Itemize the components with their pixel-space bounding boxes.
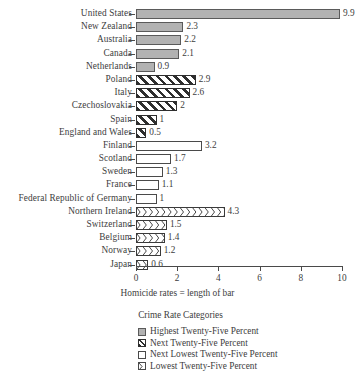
bar: [136, 35, 181, 45]
legend-label: Highest Twenty-Five Percent: [150, 326, 259, 337]
x-axis: 0246810: [0, 266, 355, 290]
bar-value-label: 1.1: [162, 178, 174, 191]
y-axis-tick: [129, 238, 135, 239]
bar: [136, 9, 340, 19]
x-axis-tick: [301, 266, 302, 271]
x-axis-tick: [136, 266, 137, 271]
zigzag-pattern: [137, 208, 224, 216]
category-label: Canada: [0, 47, 132, 60]
legend-swatch-next: [138, 339, 146, 347]
bar: [136, 167, 163, 177]
bar: [136, 75, 196, 85]
category-label: United States: [0, 7, 132, 20]
category-label: Sweden: [0, 165, 132, 178]
bar-value-label: 2.6: [193, 86, 205, 99]
category-label: Scotland: [0, 152, 132, 165]
y-axis-tick: [129, 172, 135, 173]
x-axis-tick-label: 4: [216, 272, 221, 284]
y-axis-tick: [129, 120, 135, 121]
category-label: Finland: [0, 139, 132, 152]
category-label: Northern Ireland: [0, 205, 132, 218]
x-axis-tick-label: 10: [337, 272, 346, 284]
y-axis-tick: [129, 185, 135, 186]
x-axis-tick: [218, 266, 219, 271]
category-label: Switzerland: [0, 218, 132, 231]
legend-swatch-highest: [138, 328, 146, 336]
bar: [136, 62, 155, 72]
bar: [136, 128, 146, 138]
legend-item: Next Lowest Twenty-Five Percent: [138, 349, 355, 361]
category-label: France: [0, 178, 132, 191]
category-label: England and Wales: [0, 126, 132, 139]
category-label: Australia: [0, 33, 132, 46]
bar: [136, 154, 171, 164]
bar-value-label: 4.3: [228, 205, 240, 218]
bar: [136, 207, 225, 217]
y-axis-tick: [129, 251, 135, 252]
category-label: Poland: [0, 73, 132, 86]
x-axis-line: [136, 266, 342, 267]
legend-label: Lowest Twenty-Five Percent: [150, 361, 257, 372]
x-axis-tick: [342, 266, 343, 271]
plot-area: United States9.9New Zealand2.3Australia2…: [0, 8, 355, 266]
zigzag-pattern: [137, 247, 160, 255]
x-axis-tick-label: 6: [257, 272, 262, 284]
bar-value-label: 2.2: [184, 33, 196, 46]
category-label: Czechoslovakia: [0, 99, 132, 112]
x-axis-tick-label: 0: [134, 272, 139, 284]
bar-value-label: 1: [160, 192, 165, 205]
y-axis-tick: [129, 80, 135, 81]
chart-legend: Crime Rate Categories Highest Twenty-Fiv…: [0, 310, 355, 372]
y-axis-tick: [129, 146, 135, 147]
y-axis-tick: [129, 27, 135, 28]
y-axis-tick: [129, 54, 135, 55]
y-axis-tick: [129, 14, 135, 15]
category-label: Norway: [0, 244, 132, 257]
legend-label: Next Twenty-Five Percent: [150, 338, 248, 349]
y-axis-tick: [129, 40, 135, 41]
category-label: Italy: [0, 86, 132, 99]
bar-value-label: 2.1: [182, 47, 194, 60]
x-axis-tick-label: 2: [175, 272, 180, 284]
bar-value-label: 0.5: [149, 126, 161, 139]
bar-value-label: 2: [180, 99, 185, 112]
legend-swatch-lowest: [138, 362, 146, 370]
legend-item-list: Highest Twenty-Five PercentNext Twenty-F…: [0, 326, 355, 372]
legend-title: Crime Rate Categories: [0, 310, 355, 320]
category-label: Federal Republic of Germany: [0, 192, 132, 205]
bar-value-label: 0.9: [158, 60, 170, 73]
bar: [136, 194, 157, 204]
category-label: Netherlands: [0, 60, 132, 73]
bar-value-label: 1.2: [164, 244, 176, 257]
bar: [136, 220, 167, 230]
y-axis-tick: [129, 93, 135, 94]
x-axis-tick-label: 8: [298, 272, 303, 284]
zigzag-pattern: [137, 234, 164, 242]
x-axis-tick: [260, 266, 261, 271]
category-label: Belgium: [0, 231, 132, 244]
y-axis-tick: [129, 67, 135, 68]
homicide-rates-bar-chart: United States9.9New Zealand2.3Australia2…: [0, 0, 355, 388]
bar-value-label: 1: [160, 113, 165, 126]
bar: [136, 22, 183, 32]
bar: [136, 88, 190, 98]
bar-value-label: 2.3: [186, 20, 198, 33]
y-axis-tick: [129, 199, 135, 200]
bar-value-label: 9.9: [343, 7, 355, 20]
bar-value-label: 1.5: [170, 218, 182, 231]
x-axis-caption: Homicide rates = length of bar: [0, 288, 355, 298]
y-axis-tick: [129, 106, 135, 107]
legend-item: Highest Twenty-Five Percent: [138, 326, 355, 338]
category-label: New Zealand: [0, 20, 132, 33]
y-axis-tick: [129, 225, 135, 226]
y-axis-tick: [129, 212, 135, 213]
bar: [136, 141, 202, 151]
y-axis-tick: [129, 159, 135, 160]
bar-value-label: 1.3: [166, 165, 178, 178]
bar: [136, 233, 165, 243]
bar: [136, 180, 159, 190]
bar: [136, 246, 161, 256]
bar: [136, 101, 177, 111]
category-label: Spain: [0, 113, 132, 126]
zigzag-pattern: [137, 221, 166, 229]
